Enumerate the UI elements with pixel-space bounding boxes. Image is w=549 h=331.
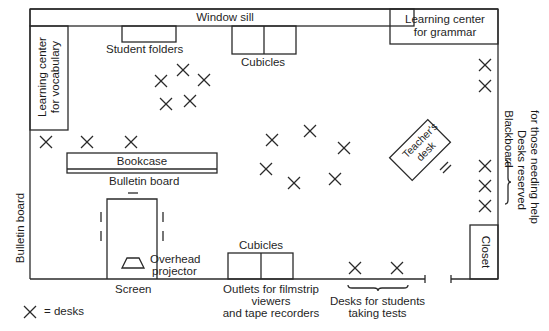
overhead-projector-icon: [122, 258, 144, 268]
learning-center-grammar-label-1: Learning center: [392, 13, 498, 26]
test-desks-label-2: taking tests: [320, 307, 435, 320]
blackboard-label: Blackboard: [502, 96, 515, 182]
desk-icon: [479, 180, 491, 192]
desk-icon: [479, 200, 491, 212]
desk-icon: [81, 136, 93, 148]
cubicles-bottom: [228, 253, 293, 279]
overhead-projector-label-2: projector: [152, 265, 197, 278]
student-folders-label: Student folders: [106, 43, 183, 56]
legend-label: = desks: [44, 305, 84, 318]
desk-icon: [479, 160, 491, 172]
desks-reserved-label-2: for those needing help: [528, 92, 541, 242]
cubicles-top: [232, 26, 296, 54]
desk-icon: [479, 59, 491, 71]
desk-icon: [349, 262, 361, 274]
window-sill-label: Window sill: [150, 11, 300, 24]
screen-label: Screen: [115, 283, 151, 296]
learning-center-vocab-label-1: Learning center: [36, 34, 49, 120]
cubicles-top-label: Cubicles: [241, 56, 285, 69]
desk-icon: [329, 173, 341, 185]
desk-icon: [155, 75, 167, 87]
bulletin-board-label: Bulletin board: [109, 175, 179, 188]
student-folders: [122, 26, 176, 42]
desk-icon: [184, 95, 196, 107]
desk-icon: [198, 74, 210, 86]
desk-icon: [338, 142, 350, 154]
desk-icon: [40, 136, 52, 148]
desk-icon: [391, 262, 403, 274]
learning-center-grammar-label-2: for grammar: [392, 26, 498, 39]
desk-icon: [304, 125, 316, 137]
desks-reserved-label-1: Desks reserved: [515, 110, 528, 230]
desk-icon: [160, 98, 172, 110]
desk-icon: [288, 177, 300, 189]
desk-icon: [266, 134, 278, 146]
bulletin-board-wall-label: Bulletin board: [14, 183, 27, 273]
learning-center-vocab-label-2: for vocabulary: [49, 34, 62, 120]
cubicles-bottom-label: Cubicles: [239, 239, 283, 252]
desk-icon: [125, 136, 137, 148]
closet-label: Closet: [479, 232, 492, 272]
bookcase-label: Bookcase: [67, 155, 217, 168]
desk-icon: [479, 80, 491, 92]
legend-desk-icon: [24, 306, 36, 318]
desk-icon: [177, 64, 189, 76]
desk-icon: [260, 163, 272, 175]
test-desks-brace: [348, 285, 408, 291]
